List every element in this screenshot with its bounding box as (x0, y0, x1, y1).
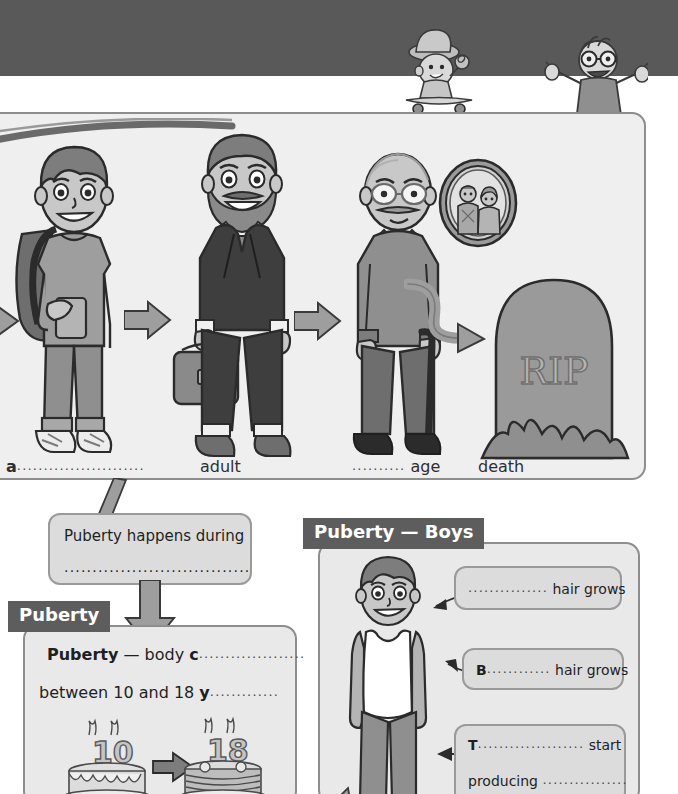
curved-arrow-to-death-icon (404, 278, 494, 358)
stage-label-text: death (478, 457, 524, 476)
puberty-line-2-text: between 10 and 18 (39, 683, 199, 702)
stage-label-dots: .......... (352, 458, 405, 473)
stage-labels-row: a........................ adult ........… (0, 455, 678, 485)
facial-hair-callout[interactable]: ............... hair grows (454, 566, 622, 610)
puberty-line-2-cue: y (199, 683, 209, 702)
testicles-label: start (584, 737, 621, 753)
stage-label-death: death (478, 457, 524, 476)
couple-portrait-frame (438, 158, 518, 248)
birthday-cakes-illustration: 10 18 (59, 711, 269, 794)
facial-hair-callout-text: ............... hair grows (468, 580, 626, 597)
body-hair-blank[interactable]: ............ (487, 661, 551, 676)
body-hair-cue: B (476, 662, 487, 678)
puberty-line-2: between 10 and 18 y............. (39, 683, 279, 702)
testicles-callout-line2: producing ................ (468, 772, 628, 789)
cake-18: 18 (179, 719, 267, 794)
puberty-happens-line1: Puberty happens during (64, 527, 244, 545)
svg-text:10: 10 (92, 735, 134, 770)
life-stages-illustration-area: RIP (0, 114, 644, 478)
puberty-line-1-cue: c (189, 645, 198, 664)
incoming-arrow-icon (0, 299, 20, 343)
stage-label-adult: adult (200, 457, 241, 476)
puberty-happens-blank[interactable]: ................................. (64, 559, 250, 575)
producing-label: producing (468, 773, 538, 789)
puberty-boy-figure (326, 552, 456, 794)
header-band (0, 0, 678, 76)
testicles-blank[interactable]: .................... (478, 736, 585, 751)
facial-hair-label: hair grows (548, 581, 626, 597)
adult-figure (172, 124, 312, 469)
stage-label-text: age (410, 457, 440, 476)
stage-label-dots: ........................ (17, 458, 145, 473)
testicles-callout[interactable]: T.................... start producing ..… (454, 724, 626, 794)
testicles-cue: T (468, 737, 478, 753)
life-stages-panel: RIP (0, 112, 646, 480)
testicles-callout-line1: T.................... start (468, 736, 621, 753)
stage-label-old-age: .......... age (352, 457, 440, 476)
body-hair-label: hair grows (551, 662, 629, 678)
tab-puberty-boys[interactable]: Puberty — Boys (303, 518, 484, 549)
puberty-line-1-bold: Puberty (47, 645, 118, 664)
arrow-teen-to-adult-icon (124, 299, 172, 341)
puberty-panel: Puberty — body c.................... bet… (23, 625, 297, 794)
arrow-adult-to-oldage-icon (294, 300, 342, 342)
facial-hair-blank[interactable]: ............... (468, 580, 548, 595)
body-hair-callout[interactable]: B............ hair grows (462, 648, 624, 690)
puberty-line-1-text: — body (118, 645, 189, 664)
stage-label-text: adult (200, 457, 241, 476)
svg-text:18: 18 (207, 733, 249, 768)
puberty-line-2-blank[interactable]: ............. (210, 684, 279, 699)
svg-text:RIP: RIP (519, 349, 588, 393)
old-man-figure (336, 134, 466, 469)
arc-line-decoration (0, 118, 236, 152)
producing-blank[interactable]: ................ (542, 772, 627, 787)
tab-puberty[interactable]: Puberty (8, 601, 110, 632)
puberty-line-1-blank[interactable]: .................... (199, 646, 306, 661)
worksheet-page: RIP a........................ adult ....… (0, 0, 678, 794)
body-hair-callout-text: B............ hair grows (476, 661, 628, 678)
teenager-figure (4, 134, 144, 464)
stage-label-prefix: a (6, 457, 17, 476)
puberty-happens-box[interactable]: Puberty happens during .................… (48, 513, 252, 585)
gravestone-figure: RIP (480, 272, 630, 472)
arrow-stub-icon (324, 782, 364, 794)
puberty-line-1: Puberty — body c.................... (47, 645, 305, 664)
cake-10: 10 (63, 721, 151, 794)
puberty-boys-panel: ............... hair grows B............… (318, 542, 640, 794)
stage-label-adolescence: a........................ (6, 457, 145, 476)
